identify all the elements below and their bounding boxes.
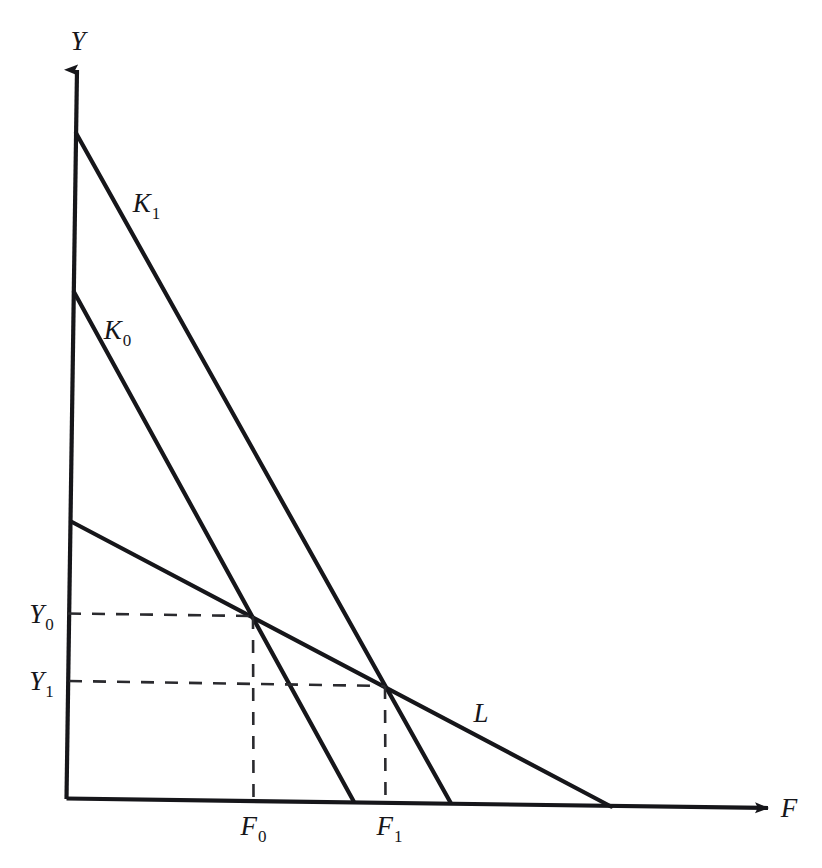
k1-curve-label: K1 xyxy=(133,190,160,217)
y0-value-label: Y0 xyxy=(29,601,53,628)
axes-group xyxy=(67,70,769,808)
f1-guide-vertical xyxy=(385,686,386,802)
f1-value-label-text: F xyxy=(376,811,393,841)
diagram-canvas xyxy=(0,0,822,868)
f1-value-label: F1 xyxy=(376,813,401,840)
f1-value-label-subscript: 1 xyxy=(394,827,403,846)
k1-curve-label-text: K xyxy=(133,188,151,218)
l-curve-label: L xyxy=(473,700,488,727)
k0-curve-label: K0 xyxy=(104,317,131,344)
x-axis xyxy=(67,799,769,809)
y-axis-label-text: Y xyxy=(70,26,85,56)
y-axis xyxy=(67,70,78,799)
y1-value-label-text: Y xyxy=(29,666,44,696)
k1-curve-label-subscript: 1 xyxy=(152,204,161,223)
figure-root: Y F K1 K0 L Y0 Y1 F0 F1 xyxy=(0,0,822,868)
f0-value-label-subscript: 0 xyxy=(258,827,267,846)
f0-guide-vertical xyxy=(253,616,254,800)
l-line xyxy=(72,522,611,807)
caption-strip xyxy=(0,846,822,868)
y1-guide-horizontal xyxy=(69,681,385,686)
k0-curve-label-subscript: 0 xyxy=(123,331,132,350)
f0-value-label-text: F xyxy=(240,811,257,841)
k0-curve-label-text: K xyxy=(104,315,122,345)
y0-value-label-text: Y xyxy=(29,599,44,629)
y1-value-label: Y1 xyxy=(29,668,53,695)
y-axis-label: Y xyxy=(70,28,85,55)
l-curve-label-text: L xyxy=(473,698,488,728)
f0-value-label: F0 xyxy=(240,813,265,840)
x-axis-label-text: F xyxy=(781,793,798,823)
y0-value-label-subscript: 0 xyxy=(45,615,54,634)
k1-line xyxy=(76,133,451,803)
y0-guide-horizontal xyxy=(68,614,253,617)
constraint-lines-group xyxy=(72,133,611,807)
y1-value-label-subscript: 1 xyxy=(45,682,54,701)
x-axis-label: F xyxy=(781,795,798,822)
